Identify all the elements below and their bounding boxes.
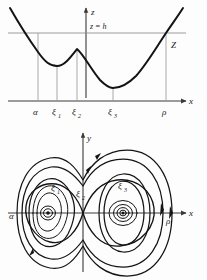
center-point-xi1 — [46, 211, 50, 215]
lower-label-xi3-subscript: 3 — [123, 187, 127, 193]
upper-plot-panel: z x z = h Z α ξ 1 ξ 2 ξ 3 ρ — [8, 7, 193, 119]
lower-label-xi2: ξ 2 — [76, 189, 85, 201]
upper-tick-label-xi2: ξ 2 — [72, 107, 81, 119]
lower-x-axis-label: x — [188, 208, 193, 218]
level-line-label: z = h — [89, 22, 107, 31]
potential-curve-Z — [10, 8, 183, 88]
lower-label-xi2-subscript: 2 — [82, 195, 85, 201]
figure-canvas: z x z = h Z α ξ 1 ξ 2 ξ 3 ρ — [0, 0, 207, 280]
upper-tick-label-xi1: ξ 1 — [52, 107, 61, 119]
lower-label-xi1-symbol: ξ — [51, 183, 55, 193]
upper-z-axis-label: z — [90, 7, 95, 17]
upper-tick-label-xi3: ξ 3 — [108, 107, 117, 119]
lower-label-xi1-subscript: 1 — [57, 189, 60, 195]
lower-label-xi2-symbol: ξ — [76, 189, 80, 199]
upper-tick-label-rho: ρ — [161, 107, 167, 117]
potential-curve-label: Z — [171, 40, 177, 50]
lower-y-axis-label: y — [86, 133, 91, 143]
lower-label-alpha: α — [9, 211, 14, 221]
upper-tick-xi2-subscript: 2 — [78, 113, 81, 119]
center-point-xi3 — [122, 212, 125, 215]
figure-root: z x z = h Z α ξ 1 ξ 2 ξ 3 ρ — [0, 0, 207, 280]
upper-tick-xi3-subscript: 3 — [113, 113, 117, 119]
upper-tick-xi1-symbol: ξ — [52, 107, 56, 117]
upper-tick-xi3-symbol: ξ — [108, 107, 112, 117]
upper-tick-xi1-subscript: 1 — [58, 113, 61, 119]
lower-label-xi3-symbol: ξ — [118, 181, 122, 191]
lower-label-xi3: ξ 3 — [118, 181, 127, 193]
upper-tick-xi2-symbol: ξ — [72, 107, 76, 117]
upper-x-axis-label: x — [188, 96, 193, 106]
upper-tick-label-alpha: α — [33, 107, 38, 117]
lower-plot-panel: y x α ρ ξ 1 ξ 2 ξ 3 — [8, 133, 193, 276]
lower-label-rho: ρ — [165, 216, 171, 226]
